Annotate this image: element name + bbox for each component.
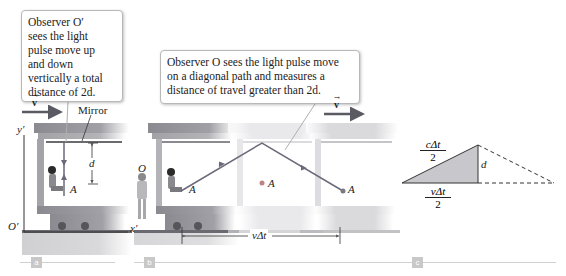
callout-b-line-1: Observer O sees the light pulse move (167, 55, 353, 69)
base-denominator: 2 (425, 198, 451, 210)
hypotenuse-denominator: 2 (420, 151, 446, 163)
callout-a-line-6: distance of 2d. (28, 85, 116, 99)
panel-b-tag: b (144, 257, 155, 268)
callout-observer-o: Observer O sees the light pulse move on … (160, 50, 360, 104)
vector-arrow-glyph-a: → (32, 92, 38, 100)
callout-a-line-4: and down (28, 57, 116, 71)
origin-prime-label: O′ (8, 220, 18, 232)
callout-a-line-2: sees the light (28, 29, 116, 43)
hypotenuse-fraction: cΔt 2 (420, 138, 446, 163)
panel-b-train-1 (134, 123, 239, 245)
point-a-label-b1: A (189, 183, 196, 195)
hypotenuse-numerator: cΔt (420, 138, 446, 151)
callout-a-line-3: pulse move up (28, 43, 116, 57)
base-fraction: vΔt 2 (425, 185, 451, 210)
callout-a-line-5: vertically a total (28, 71, 116, 85)
mirror-label: Mirror (78, 104, 107, 116)
callout-b-line-3: distance of travel greater than 2d. (167, 83, 353, 97)
callout-a-line-1: Observer O′ (28, 15, 116, 29)
person-a-seated-b (167, 168, 182, 192)
panel-c-baseline (400, 262, 556, 263)
person-a-seated (48, 166, 63, 191)
y-prime-label: y′ (17, 123, 24, 135)
base-numerator: vΔt (425, 185, 451, 198)
panel-b-baseline (134, 262, 400, 263)
panel-c-tag: c (412, 257, 423, 268)
vector-arrow-glyph-b: → (334, 94, 340, 102)
height-d-label: d (481, 158, 487, 170)
point-a-label-b3: A (348, 183, 355, 195)
panel-a-tag: a (31, 257, 42, 268)
distance-d-label: d (89, 157, 95, 169)
callout-b-line-2: on a diagonal path and measures a (167, 69, 353, 83)
panel-b-train-2 (228, 123, 323, 233)
observer-o-label: O (138, 162, 146, 174)
panel-a-train (22, 123, 132, 255)
observer-o-standing (137, 173, 147, 219)
dashed-hypotenuse (478, 145, 554, 183)
point-a-label: A (70, 183, 77, 195)
x-prime-label: x′ (130, 222, 137, 234)
displacement-label: vΔt (250, 229, 268, 241)
point-a-label-b2: A (268, 177, 275, 189)
callout-observer-o-prime: Observer O′ sees the light pulse move up… (21, 10, 123, 102)
